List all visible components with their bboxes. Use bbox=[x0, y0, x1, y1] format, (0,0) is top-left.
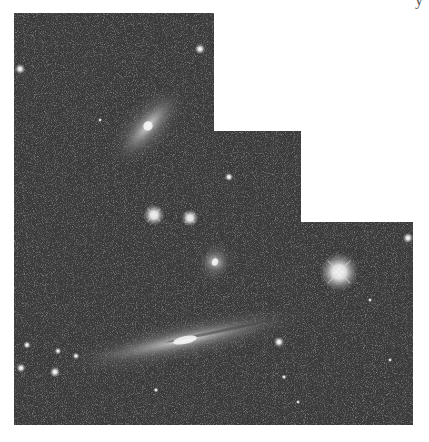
star-far-right-icon bbox=[403, 233, 414, 244]
star-cluster-4-icon bbox=[54, 347, 61, 354]
mosaic-canvas bbox=[0, 0, 429, 442]
star-cluster-5-icon bbox=[72, 352, 79, 359]
star-faint-5-icon bbox=[368, 298, 372, 302]
star-lower-mid-icon bbox=[274, 337, 285, 348]
star-cluster-2-icon bbox=[16, 363, 26, 373]
star-faint-1-icon bbox=[153, 387, 158, 392]
star-mid-icon bbox=[225, 173, 234, 182]
star-top-left-icon bbox=[15, 64, 26, 75]
star-faint-4-icon bbox=[98, 118, 102, 122]
star-cluster-3-icon bbox=[50, 367, 61, 378]
star-faint-2-icon bbox=[281, 374, 286, 379]
star-top-right-icon bbox=[195, 44, 206, 55]
star-cluster-1-icon bbox=[23, 341, 31, 349]
star-faint-3-icon bbox=[296, 400, 300, 404]
astronomical-image: y bbox=[0, 0, 429, 442]
star-faint-6-icon bbox=[388, 358, 392, 362]
